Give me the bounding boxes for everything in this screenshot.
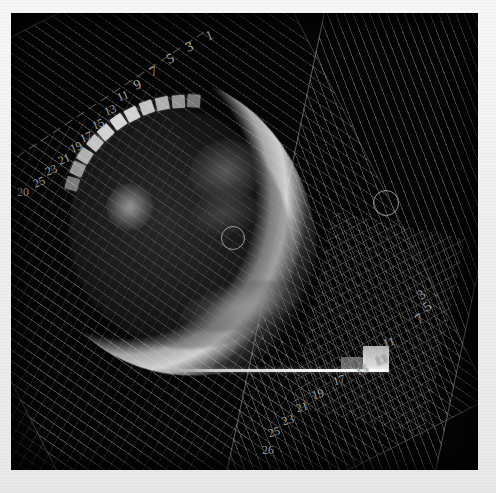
bone-block xyxy=(139,100,156,117)
treatment-couch xyxy=(161,369,386,372)
leaf-number-label-top: 20 xyxy=(17,186,29,198)
isocenter-marker[interactable] xyxy=(373,190,399,216)
leaf-number-label-bottom: 26 xyxy=(262,444,274,456)
dose-plan-viewport[interactable]: 1357911131517192123252011131517192123252… xyxy=(11,13,478,470)
bone-block xyxy=(64,176,80,192)
bone-block xyxy=(155,96,170,111)
head-cross-section xyxy=(14,42,405,433)
screenshot-root: 1357911131517192123252011131517192123252… xyxy=(0,0,496,493)
leaf-number-label-bottom: 11 xyxy=(382,335,396,350)
bone-block xyxy=(171,95,185,109)
bone-block xyxy=(187,94,201,108)
isocenter-marker[interactable] xyxy=(221,226,245,250)
